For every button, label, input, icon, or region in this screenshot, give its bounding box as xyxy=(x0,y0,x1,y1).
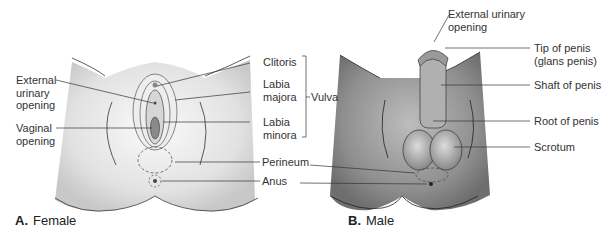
male-figure xyxy=(330,50,490,210)
label-anus: Anus xyxy=(262,175,287,188)
label-root-of-penis: Root of penis xyxy=(534,115,599,128)
label-female-external-urinary-opening: External urinary opening xyxy=(16,74,56,112)
female-figure xyxy=(55,56,258,211)
label-tip-of-penis: Tip of penis (glans penis) xyxy=(534,42,597,67)
caption-female: A.Female xyxy=(15,213,76,228)
label-shaft-of-penis: Shaft of penis xyxy=(534,79,601,92)
label-labia-minora: Labia minora xyxy=(263,116,297,141)
label-clitoris: Clitoris xyxy=(263,56,297,69)
label-scrotum: Scrotum xyxy=(534,141,575,154)
label-vaginal-opening: Vaginal opening xyxy=(16,122,55,147)
label-male-external-urinary-opening: External urinary opening xyxy=(448,8,525,33)
label-vulva: Vulva xyxy=(311,91,338,104)
anatomy-illustration xyxy=(0,0,611,237)
caption-male: B.Male xyxy=(348,213,394,228)
label-perineum: Perineum xyxy=(262,156,309,169)
label-labia-majora: Labia majora xyxy=(263,78,297,103)
